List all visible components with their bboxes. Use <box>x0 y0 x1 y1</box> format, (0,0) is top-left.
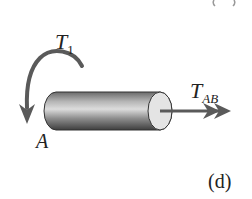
label-tab-main: T <box>190 78 202 103</box>
top-cut-label <box>213 0 235 6</box>
label-t1-sub: 1 <box>67 42 74 57</box>
label-tab-sub: AB <box>202 91 218 106</box>
label-t1-main: T <box>55 29 67 54</box>
torsion-free-body-diagram: T1 TAB A (d) <box>0 0 252 199</box>
label-t1: T1 <box>55 31 74 53</box>
panel-label: (d) <box>208 171 231 191</box>
label-point-a: A <box>36 131 48 151</box>
shaft <box>44 92 172 130</box>
label-tab: TAB <box>190 80 218 102</box>
